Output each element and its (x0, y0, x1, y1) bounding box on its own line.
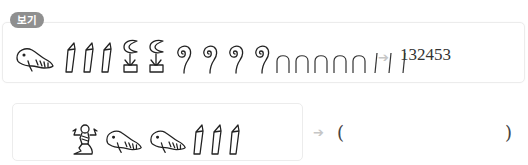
heel-icon (294, 52, 310, 74)
lotus-icon (146, 38, 166, 74)
example-glyph-row (14, 34, 407, 74)
open-paren: ( (337, 124, 344, 142)
heel-icon (332, 52, 348, 74)
finger-icon (192, 122, 206, 156)
coil-icon (250, 42, 272, 74)
answer-blank[interactable] (350, 120, 500, 146)
finger-icon (210, 122, 224, 156)
coil-icon (172, 42, 194, 74)
coil-icon (198, 42, 220, 74)
tadpole-icon (148, 126, 190, 156)
heel-icon (275, 52, 291, 74)
lotus-icon (120, 38, 140, 74)
seated-god-icon (70, 124, 100, 156)
finger-icon (82, 40, 96, 74)
example-badge: 보기 (10, 12, 44, 28)
coil-icon (224, 42, 246, 74)
finger-icon (64, 40, 78, 74)
question-arrow-icon: ➔ (313, 126, 324, 139)
close-paren: ) (505, 124, 512, 142)
question-glyph-row (70, 116, 242, 156)
tadpole-icon (104, 126, 146, 156)
heel-icon (313, 52, 329, 74)
example-result: 132453 (400, 45, 451, 65)
heel-icon (351, 52, 367, 74)
example-arrow-icon: ➔ (378, 51, 389, 64)
finger-icon (228, 122, 242, 156)
tadpole-icon (14, 44, 58, 74)
finger-icon (100, 40, 114, 74)
